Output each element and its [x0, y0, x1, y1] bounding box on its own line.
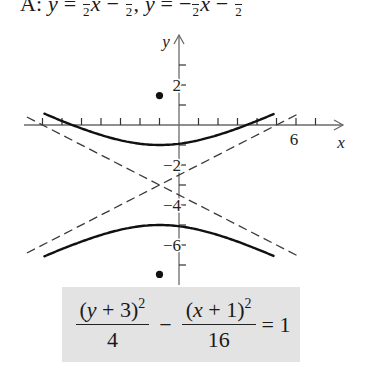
- focus-point: [156, 271, 163, 278]
- denominator: 16: [208, 325, 230, 353]
- var-y: y: [87, 297, 97, 322]
- paren: (: [80, 297, 87, 322]
- y-tick-label: 2: [173, 76, 182, 95]
- equation-box: (y + 3)2 4 − (x + 1)2 16 = 1: [62, 287, 300, 362]
- asymptote-lines: [27, 114, 298, 256]
- y-tick-label: −6: [163, 236, 181, 255]
- x-tick-label: 6: [290, 130, 299, 149]
- minus-sign: −: [159, 312, 171, 338]
- denominator: 4: [107, 325, 118, 353]
- y-axis-label: y: [160, 32, 170, 51]
- fraction-x-term: (x + 1)2 16: [182, 297, 256, 353]
- axes: [24, 35, 343, 285]
- x-axis-label: x: [336, 133, 345, 152]
- paren: (: [186, 297, 193, 322]
- exponent: 2: [138, 296, 145, 311]
- fraction-y-term: (y + 3)2 4: [76, 297, 150, 353]
- y-tick-label: −2: [163, 156, 181, 175]
- term-rest: + 3): [97, 297, 139, 322]
- term-rest: + 1): [203, 297, 245, 322]
- asymptote-line: [27, 114, 298, 253]
- var-x: x: [193, 297, 203, 322]
- focus-point: [156, 92, 163, 99]
- lower-branch: [44, 225, 273, 256]
- y-tick-label: −4: [163, 196, 182, 215]
- equals-one: = 1: [262, 312, 291, 338]
- exponent: 2: [245, 296, 252, 311]
